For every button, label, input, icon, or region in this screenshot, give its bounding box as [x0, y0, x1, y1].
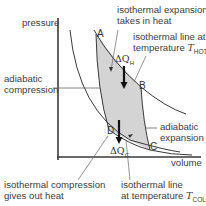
heat-in-symbol: ΔQ — [115, 53, 130, 64]
point-b-label: B — [139, 81, 146, 91]
iso-expansion-line2: takes in heat — [117, 15, 206, 26]
adiabatic-compression-line2: compression — [4, 84, 58, 95]
hot-line2-prefix: temperature — [133, 42, 187, 53]
adiabatic-expansion-line1: adiabatic — [160, 121, 204, 132]
point-d-label: D — [107, 126, 114, 136]
y-axis-label: pressure — [22, 17, 59, 28]
leader-iso-compression — [78, 136, 108, 180]
iso-expansion-line1: isothermal expansion — [117, 4, 206, 15]
adiabatic-expansion-line2: expansion — [160, 132, 204, 143]
point-a-label: A — [97, 29, 104, 39]
x-axis-label: volume — [171, 157, 202, 168]
hot-temperature-symbol: THOT — [187, 42, 206, 53]
hot-T-subscript: HOT — [194, 48, 206, 55]
cold-line1: isothermal line — [121, 179, 206, 190]
heat-in-subscript: H — [130, 60, 134, 66]
cold-line2: at temperature TCOLD — [121, 190, 206, 205]
iso-expansion-annotation: isothermal expansion takes in heat — [117, 4, 206, 26]
cold-isotherm-annotation: isothermal line at temperature TCOLD — [121, 179, 206, 205]
heat-out-symbol: ΔQ — [110, 145, 125, 156]
adiabatic-expansion-annotation: adiabatic expansion — [160, 121, 204, 143]
cold-T-subscript: COLD — [192, 196, 206, 203]
heat-in-label: ΔQH — [115, 54, 134, 68]
hot-line2: temperature THOT — [133, 42, 206, 57]
cold-line2-prefix: at temperature — [121, 190, 186, 201]
point-c-label: C — [150, 142, 157, 152]
adiabatic-compression-line1: adiabatic — [4, 73, 58, 84]
iso-compression-line1: isothermal compression — [4, 179, 105, 190]
leader-hot-line — [134, 56, 146, 82]
heat-out-label: ΔQC — [110, 146, 129, 160]
heat-out-arrowhead — [116, 137, 123, 144]
hot-isotherm-annotation: isothermal line at temperature THOT — [133, 31, 206, 57]
hot-line1: isothermal line at — [133, 31, 206, 42]
cold-temperature-symbol: TCOLD — [186, 190, 206, 201]
adiabatic-compression-annotation: adiabatic compression — [4, 73, 58, 95]
iso-compression-line2: gives out heat — [4, 190, 105, 201]
heat-out-subscript: C — [125, 152, 129, 158]
iso-compression-annotation: isothermal compression gives out heat — [4, 179, 105, 201]
